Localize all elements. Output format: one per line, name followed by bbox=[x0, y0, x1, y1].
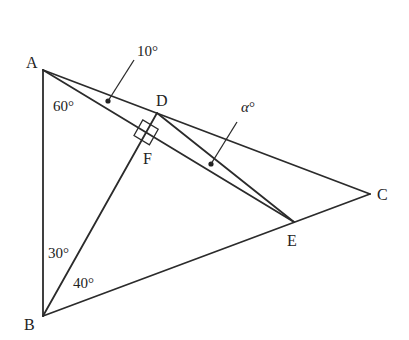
point-label-C: C bbox=[377, 186, 388, 203]
point-label-F: F bbox=[143, 150, 152, 167]
point-label-E: E bbox=[287, 232, 297, 249]
diagram-canvas: A B C D E F 60° 10° 30° 40° α° bbox=[0, 0, 409, 340]
segment-BD bbox=[43, 113, 157, 316]
point-label-B: B bbox=[24, 316, 35, 333]
point-label-A: A bbox=[26, 54, 38, 71]
segment-AC bbox=[43, 70, 370, 194]
angle-alpha-marker bbox=[208, 122, 237, 167]
angle-label-10: 10° bbox=[137, 43, 158, 59]
angle-label-30: 30° bbox=[48, 245, 69, 261]
segment-DE bbox=[157, 113, 294, 222]
angle-10-marker bbox=[105, 60, 134, 104]
angle-label-alpha: α° bbox=[241, 99, 255, 115]
segment-AE bbox=[43, 70, 294, 222]
segment-BC bbox=[43, 194, 370, 316]
leader-line bbox=[108, 60, 134, 101]
point-label-D: D bbox=[156, 92, 168, 109]
geometry-diagram: A B C D E F 60° 10° 30° 40° α° bbox=[0, 0, 409, 340]
angle-label-40: 40° bbox=[73, 275, 94, 291]
angle-label-60: 60° bbox=[53, 98, 74, 114]
